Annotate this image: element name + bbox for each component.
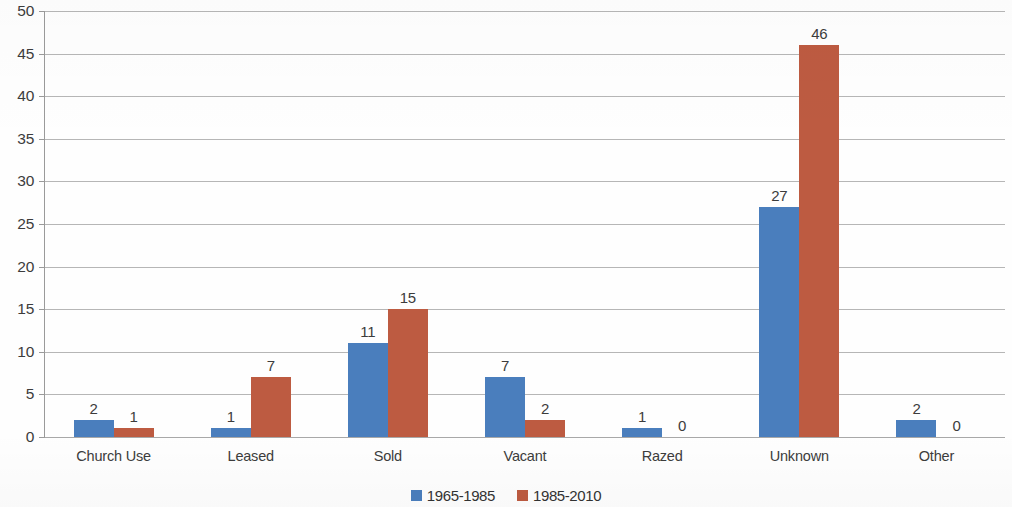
bar-pair: 20 xyxy=(868,11,1005,437)
bar-slot: 2 xyxy=(525,11,565,437)
bar[interactable] xyxy=(525,420,565,437)
bar-value-label: 7 xyxy=(267,357,275,374)
x-axis-category-label: Other xyxy=(868,448,1005,464)
bar-slot: 1 xyxy=(114,11,154,437)
bar-pair: 17 xyxy=(182,11,319,437)
y-axis-tick-label: 20 xyxy=(0,258,34,276)
bar[interactable] xyxy=(114,428,154,437)
legend-label: 1965-1985 xyxy=(427,487,495,504)
x-axis-category-label: Leased xyxy=(182,448,319,464)
x-axis-category-label: Unknown xyxy=(731,448,868,464)
bar[interactable] xyxy=(348,343,388,437)
x-axis-category-label: Sold xyxy=(319,448,456,464)
bar-pair: 2746 xyxy=(731,11,868,437)
bar-group: 17 xyxy=(182,11,319,437)
bar-slot: 2 xyxy=(896,11,936,437)
bar-slot: 46 xyxy=(799,11,839,437)
bar-slot: 1 xyxy=(211,11,251,437)
legend-label: 1985-2010 xyxy=(533,487,601,504)
x-axis-category-label: Vacant xyxy=(456,448,593,464)
bar[interactable] xyxy=(74,420,114,437)
bar-slot: 0 xyxy=(662,11,702,437)
bar-slot: 2 xyxy=(74,11,114,437)
bar-pair: 10 xyxy=(594,11,731,437)
bar-slot: 27 xyxy=(759,11,799,437)
bar-group: 2746 xyxy=(731,11,868,437)
bar-value-label: 0 xyxy=(952,417,960,434)
bar-value-label: 1 xyxy=(227,408,235,425)
legend-item[interactable]: 1965-1985 xyxy=(411,487,495,504)
bar-pair: 1115 xyxy=(319,11,456,437)
bar-slot: 11 xyxy=(348,11,388,437)
bar[interactable] xyxy=(211,428,251,437)
bar-slot: 7 xyxy=(485,11,525,437)
bar[interactable] xyxy=(388,309,428,437)
bar-slot: 15 xyxy=(388,11,428,437)
bar-group: 1115 xyxy=(319,11,456,437)
bar-value-label: 2 xyxy=(90,400,98,417)
legend-item[interactable]: 1985-2010 xyxy=(517,487,601,504)
bar[interactable] xyxy=(622,428,662,437)
bar-group: 10 xyxy=(594,11,731,437)
bar-value-label: 46 xyxy=(811,25,827,42)
bar-slot: 0 xyxy=(936,11,976,437)
y-axis-tick-label: 5 xyxy=(0,385,34,403)
chart-legend: 1965-19851985-2010 xyxy=(0,487,1012,504)
bar-value-label: 1 xyxy=(638,408,646,425)
bar-pair: 21 xyxy=(45,11,182,437)
bar-groups: 211711157210274620 xyxy=(45,11,1005,437)
legend-color-swatch xyxy=(411,490,422,501)
y-axis-tick-label: 45 xyxy=(0,45,34,63)
y-axis-tick-label: 10 xyxy=(0,343,34,361)
bar-value-label: 27 xyxy=(771,187,787,204)
bar[interactable] xyxy=(485,377,525,437)
bar[interactable] xyxy=(251,377,291,437)
bar[interactable] xyxy=(896,420,936,437)
bar-slot: 1 xyxy=(622,11,662,437)
bar[interactable] xyxy=(759,207,799,437)
bar[interactable] xyxy=(799,45,839,437)
gridline xyxy=(45,437,1005,438)
y-tick-mark xyxy=(39,437,45,438)
bar-group: 20 xyxy=(868,11,1005,437)
bar-chart: 05101520253035404550 211711157210274620 … xyxy=(0,0,1012,507)
bar-value-label: 0 xyxy=(678,417,686,434)
bar-slot: 7 xyxy=(251,11,291,437)
bar-value-label: 7 xyxy=(501,357,509,374)
y-axis-tick-label: 50 xyxy=(0,2,34,20)
bar-value-label: 15 xyxy=(400,289,416,306)
y-axis-tick-label: 40 xyxy=(0,87,34,105)
x-axis-category-label: Church Use xyxy=(45,448,182,464)
bar-group: 72 xyxy=(456,11,593,437)
y-axis-tick-label: 0 xyxy=(0,428,34,446)
y-axis-tick-label: 35 xyxy=(0,130,34,148)
bar-group: 21 xyxy=(45,11,182,437)
bar-value-label: 11 xyxy=(360,323,375,340)
bar-value-label: 2 xyxy=(541,400,549,417)
x-axis-category-label: Razed xyxy=(594,448,731,464)
bar-value-label: 1 xyxy=(130,408,138,425)
y-axis-tick-label: 25 xyxy=(0,215,34,233)
x-axis-labels: Church UseLeasedSoldVacantRazedUnknownOt… xyxy=(45,448,1005,464)
bar-pair: 72 xyxy=(456,11,593,437)
legend-color-swatch xyxy=(517,490,528,501)
y-axis-tick-label: 15 xyxy=(0,300,34,318)
bar-value-label: 2 xyxy=(912,400,920,417)
y-axis-tick-label: 30 xyxy=(0,172,34,190)
